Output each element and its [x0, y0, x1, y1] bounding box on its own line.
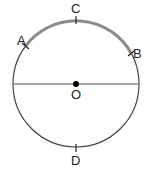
circle-diagram: C A B O D	[0, 0, 150, 169]
label-b: B	[133, 46, 142, 61]
label-c: C	[71, 1, 80, 16]
label-d: D	[71, 153, 80, 168]
label-a: A	[17, 33, 26, 48]
label-o: O	[71, 87, 81, 102]
arc-acb	[25, 21, 131, 54]
